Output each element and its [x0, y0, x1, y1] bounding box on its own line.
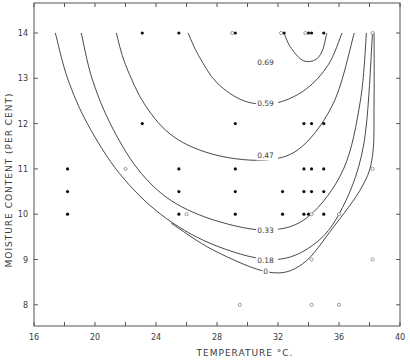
contour-lines: 0.690.590.470.330.180 [55, 33, 374, 276]
filled-data-point [310, 167, 313, 170]
filled-data-point [302, 213, 305, 216]
filled-data-point [141, 31, 144, 34]
open-data-point [310, 213, 313, 216]
filled-data-point [310, 190, 313, 193]
filled-data-point [66, 190, 69, 193]
open-data-point [185, 213, 188, 216]
filled-data-point [310, 31, 313, 34]
contour-label: 0.18 [257, 256, 274, 265]
open-data-point [371, 31, 374, 34]
y-tick-label: 13 [18, 74, 28, 83]
contour-label: 0.47 [257, 151, 274, 160]
y-tick-label: 12 [18, 120, 28, 129]
contour-line-0.69 [284, 33, 327, 62]
filled-data-point [234, 167, 237, 170]
filled-data-point [302, 122, 305, 125]
filled-data-point [281, 213, 284, 216]
filled-data-point [177, 31, 180, 34]
filled-data-point [302, 190, 305, 193]
contour-label: 0 [263, 267, 268, 276]
contour-label: 0.33 [257, 226, 274, 235]
y-tick-label: 8 [23, 301, 28, 310]
open-data-point [310, 258, 313, 261]
y-tick-label: 9 [23, 256, 28, 265]
x-tick-label: 36 [334, 333, 344, 342]
open-data-point [304, 31, 307, 34]
x-tick-label: 20 [90, 333, 100, 342]
open-data-point [124, 167, 127, 170]
filled-data-point [234, 190, 237, 193]
filled-data-point [322, 213, 325, 216]
contour-label: 0.59 [257, 99, 274, 108]
filled-data-point [322, 31, 325, 34]
contour-line-0.18 [55, 33, 372, 260]
x-tick-label: 24 [151, 333, 161, 342]
x-tick-label: 28 [212, 333, 222, 342]
y-tick-label: 14 [18, 29, 28, 38]
open-data-point [371, 258, 374, 261]
chart-container: 16202428323640891011121314 0.690.590.470… [0, 0, 410, 363]
open-data-point [238, 303, 241, 306]
filled-data-point [302, 167, 305, 170]
y-tick-label: 10 [18, 210, 28, 219]
y-axis-title: MOISTURE CONTENT (PER CENT) [4, 93, 14, 268]
filled-data-point [66, 167, 69, 170]
contour-label: 0.69 [257, 58, 274, 67]
open-data-point [337, 303, 340, 306]
contour-line-0.33 [81, 33, 366, 230]
filled-data-point [310, 122, 313, 125]
x-tick-label: 32 [273, 333, 283, 342]
x-tick-label: 40 [395, 333, 405, 342]
filled-data-point [177, 213, 180, 216]
filled-data-point [66, 213, 69, 216]
filled-data-point [177, 167, 180, 170]
open-data-point [371, 167, 374, 170]
contour-scatter-plot: 16202428323640891011121314 0.690.590.470… [0, 0, 410, 363]
filled-data-point [177, 190, 180, 193]
contour-line-0.59 [188, 33, 342, 104]
filled-data-point [234, 213, 237, 216]
filled-data-point [281, 190, 284, 193]
x-axis-title: TEMPERATURE °C. [196, 348, 294, 358]
data-points [66, 31, 374, 306]
open-data-point [310, 303, 313, 306]
open-data-point [231, 31, 234, 34]
axis-ticks: 16202428323640891011121314 [18, 3, 405, 342]
open-data-point [337, 213, 340, 216]
x-tick-label: 16 [29, 333, 39, 342]
filled-data-point [322, 167, 325, 170]
filled-data-point [234, 122, 237, 125]
filled-data-point [322, 190, 325, 193]
y-tick-label: 11 [18, 165, 28, 174]
filled-data-point [322, 122, 325, 125]
open-data-point [279, 31, 282, 34]
filled-data-point [141, 122, 144, 125]
